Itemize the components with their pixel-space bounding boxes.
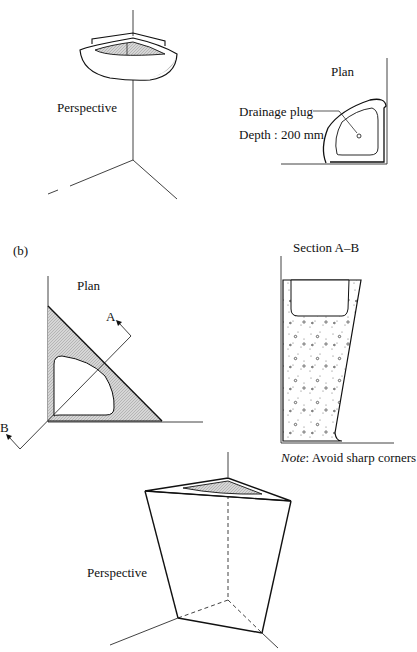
section-note: Note: Avoid sharp corners <box>281 451 416 464</box>
top-plan-label: Plan <box>331 65 354 78</box>
section-title: Section A–B <box>293 241 359 254</box>
part-b-marker: (b) <box>13 244 28 257</box>
diagram-canvas <box>0 0 417 652</box>
note-text: : Avoid sharp corners <box>306 450 417 465</box>
bottom-perspective-drawing <box>110 452 291 648</box>
bottom-plan-drawing <box>6 276 203 449</box>
bottom-perspective-label: Perspective <box>87 566 147 579</box>
section-mark-a: A <box>106 310 115 323</box>
drainage-plug-callout: Drainage plug <box>239 105 313 118</box>
section-ab-drawing <box>281 256 394 443</box>
top-perspective-label: Perspective <box>57 101 117 114</box>
section-mark-b: B <box>0 421 9 434</box>
bottom-plan-label: Plan <box>77 279 100 292</box>
depth-callout: Depth : 200 mm <box>239 128 324 141</box>
note-prefix: Note <box>281 450 306 465</box>
